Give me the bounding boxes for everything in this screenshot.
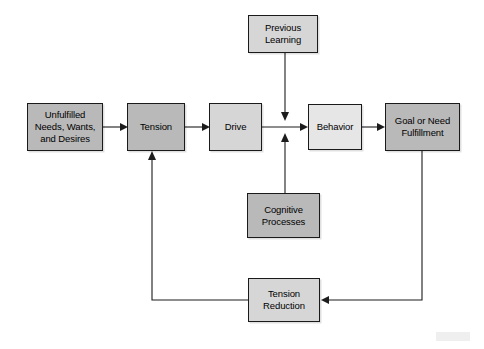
node-cognitive-processes: Cognitive Processes xyxy=(247,193,320,238)
diagram-edges xyxy=(0,0,484,349)
node-tension-reduction: Tension Reduction xyxy=(248,278,320,322)
node-tension: Tension xyxy=(127,103,185,151)
node-previous-learning-label: Previous Learning xyxy=(265,22,301,46)
edge-behavior-to-goal xyxy=(362,123,385,131)
node-behavior: Behavior xyxy=(308,104,362,150)
node-drive: Drive xyxy=(209,103,262,151)
node-tension-reduction-label: Tension Reduction xyxy=(263,288,305,312)
node-goal-or-need-fulfillment-label: Goal or Need Fulfillment xyxy=(395,115,450,139)
node-previous-learning: Previous Learning xyxy=(248,15,318,53)
node-tension-label: Tension xyxy=(140,121,172,133)
page-edge-artifact xyxy=(436,332,470,341)
edge-tension-reduction-to-tension xyxy=(148,151,248,300)
edge-unfulfilled-to-tension xyxy=(103,123,128,131)
node-unfulfilled-needs: Unfulfilled Needs, Wants, and Desires xyxy=(27,103,103,151)
node-cognitive-processes-label: Cognitive Processes xyxy=(262,204,305,228)
node-unfulfilled-needs-label: Unfulfilled Needs, Wants, and Desires xyxy=(35,109,96,145)
edge-drive-to-behavior xyxy=(262,123,308,131)
edge-goal-to-tension-reduction xyxy=(321,151,422,304)
edge-previous-learning-to-behavior xyxy=(281,53,289,121)
edge-cognitive-processes-to-behavior xyxy=(281,133,289,193)
motivation-process-diagram: Unfulfilled Needs, Wants, and Desires Te… xyxy=(0,0,484,349)
node-goal-or-need-fulfillment: Goal or Need Fulfillment xyxy=(385,103,460,151)
node-drive-label: Drive xyxy=(225,121,247,133)
edge-tension-to-drive xyxy=(185,123,210,131)
node-behavior-label: Behavior xyxy=(317,121,354,133)
